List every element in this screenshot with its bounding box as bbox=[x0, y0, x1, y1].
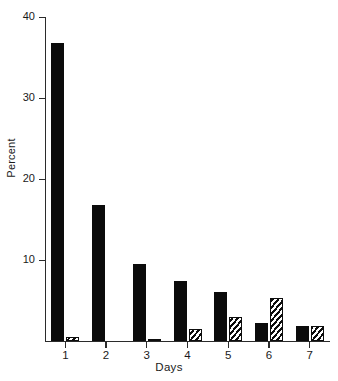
bar-solid-day-2 bbox=[92, 205, 105, 341]
bar-solid-day-1 bbox=[51, 43, 64, 341]
bar-hatched-day-1 bbox=[66, 337, 79, 341]
x-axis-title: Days bbox=[0, 361, 338, 373]
x-tick-1 bbox=[65, 342, 66, 348]
y-tick-40 bbox=[39, 17, 46, 18]
x-tick-label-4: 4 bbox=[176, 349, 200, 361]
x-tick-label-2: 2 bbox=[94, 349, 118, 361]
bar-hatched-day-7 bbox=[311, 326, 324, 341]
y-tick-10 bbox=[39, 260, 46, 261]
x-tick-5 bbox=[228, 342, 229, 348]
y-tick-label-20: 20 bbox=[1, 172, 35, 184]
y-tick-20 bbox=[39, 179, 46, 180]
bar-solid-day-3 bbox=[133, 264, 146, 341]
bar-solid-day-6 bbox=[255, 323, 268, 341]
x-tick-label-6: 6 bbox=[257, 349, 281, 361]
bar-chart: Percent Days 10203040 1234567 bbox=[0, 0, 338, 381]
x-tick-label-5: 5 bbox=[216, 349, 240, 361]
x-tick-4 bbox=[187, 342, 188, 348]
bar-solid-day-7 bbox=[296, 326, 309, 341]
x-tick-label-3: 3 bbox=[135, 349, 159, 361]
bar-solid-day-5 bbox=[214, 292, 227, 341]
x-tick-label-7: 7 bbox=[298, 349, 322, 361]
x-tick-2 bbox=[105, 342, 106, 348]
bar-hatched-day-5 bbox=[229, 317, 242, 341]
y-tick-30 bbox=[39, 98, 46, 99]
x-tick-label-1: 1 bbox=[53, 349, 77, 361]
y-tick-label-40: 40 bbox=[1, 10, 35, 22]
x-tick-7 bbox=[309, 342, 310, 348]
bar-solid-day-4 bbox=[174, 281, 187, 341]
bar-hatched-day-4 bbox=[189, 329, 202, 341]
y-tick-label-30: 30 bbox=[1, 91, 35, 103]
y-tick-label-10: 10 bbox=[1, 253, 35, 265]
x-tick-6 bbox=[268, 342, 269, 348]
x-tick-3 bbox=[146, 342, 147, 348]
bar-hatched-day-6 bbox=[270, 298, 283, 341]
bar-hatched-day-3 bbox=[148, 339, 161, 341]
